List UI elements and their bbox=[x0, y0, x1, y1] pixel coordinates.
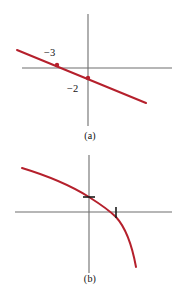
marker-x-intercept-a bbox=[55, 63, 59, 67]
figure-panel-b: 3 3 bbox=[0, 145, 180, 290]
figure-panel-a: −3 −2 bbox=[0, 0, 180, 145]
line-plot-a bbox=[17, 50, 146, 103]
curve-plot-b bbox=[22, 168, 136, 267]
label-y-intercept-a: −2 bbox=[67, 84, 78, 95]
plot-b-graph bbox=[0, 145, 180, 290]
caption-panel-a: (a) bbox=[0, 130, 180, 141]
marker-y-intercept-a bbox=[86, 76, 90, 80]
caption-panel-b: (b) bbox=[0, 273, 180, 284]
plot-a-graph bbox=[0, 0, 180, 145]
label-x-intercept-a: −3 bbox=[44, 48, 55, 59]
